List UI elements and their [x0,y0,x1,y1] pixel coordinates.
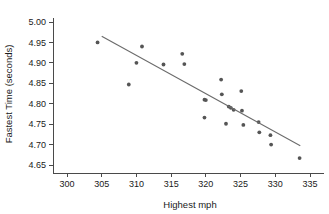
x-axis-title: Highest mph [163,199,216,210]
data-point [135,61,139,65]
data-point [269,143,273,147]
x-tick-label: 335 [302,179,317,189]
data-point [127,83,131,87]
y-tick-label: 4.95 [29,38,47,48]
y-tick-label: 4.85 [29,78,47,88]
data-point [220,92,224,96]
y-tick-label: 4.75 [29,119,47,129]
trend-line [102,36,301,145]
x-tick-label: 315 [164,179,179,189]
data-point [224,122,228,126]
y-axis-ticks: 4.654.704.754.804.854.904.955.00 [29,17,54,170]
data-point [239,89,243,93]
y-tick-label: 4.80 [29,99,47,109]
data-point [204,98,208,102]
plot-canvas: 4.654.704.754.804.854.904.955.00 3003053… [0,0,329,214]
data-point [180,52,184,56]
scatter-plot-figure: 4.654.704.754.804.854.904.955.00 3003053… [0,0,329,214]
data-point [298,156,302,160]
data-point [241,123,245,127]
x-tick-label: 330 [268,179,283,189]
data-point [240,109,244,113]
x-tick-label: 305 [94,179,109,189]
y-tick-label: 4.90 [29,58,47,68]
y-tick-label: 4.70 [29,140,47,150]
x-axis-ticks: 300305310315320325330335 [59,173,317,189]
x-tick-label: 320 [198,179,213,189]
x-tick-label: 300 [59,179,74,189]
data-point [257,130,261,134]
y-tick-label: 4.65 [29,160,47,170]
data-points-group [96,41,302,160]
y-axis-title: Fastest Time (seconds) [3,45,14,144]
x-tick-label: 310 [129,179,144,189]
data-point [203,116,207,120]
data-point [219,78,223,82]
y-tick-label: 5.00 [29,17,47,27]
data-point [96,41,100,45]
x-tick-label: 325 [233,179,248,189]
data-point [140,45,144,49]
data-point [182,62,186,66]
data-point [269,133,273,137]
data-point [162,63,166,67]
